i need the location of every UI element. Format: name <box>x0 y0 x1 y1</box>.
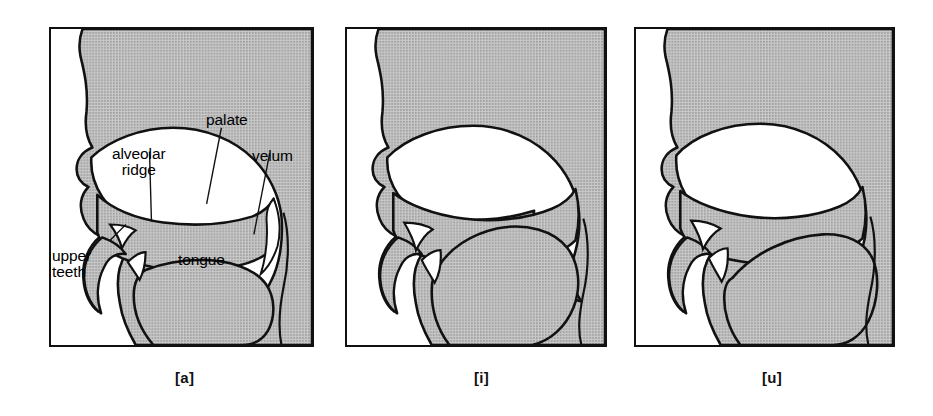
tongue-body <box>134 260 274 345</box>
label-palate: palate <box>206 112 248 128</box>
sagittal-diagram-i <box>347 29 605 345</box>
sagittal-diagram-u <box>636 29 893 345</box>
label-alveolar-ridge-line1: alveolar <box>112 145 165 162</box>
label-tongue: tongue <box>178 252 225 268</box>
label-alveolar-ridge-line2: ridge <box>112 162 165 178</box>
panel-vowel-u <box>634 27 895 347</box>
label-upper-teeth-line2: teeth <box>52 264 91 280</box>
label-upper-teeth: upper teeth <box>52 248 91 280</box>
caption-vowel-i: [i] <box>474 369 489 386</box>
label-alveolar-ridge: alveolar ridge <box>112 146 165 178</box>
label-upper-teeth-line1: upper <box>52 247 91 264</box>
sagittal-diagram-a <box>51 29 312 345</box>
panel-vowel-a <box>49 27 314 347</box>
caption-vowel-u: [u] <box>762 369 782 386</box>
vocal-tract-figure: palate alveolar ridge velum upper teeth … <box>0 0 933 416</box>
caption-vowel-a: [a] <box>175 369 194 386</box>
panel-vowel-i <box>345 27 607 347</box>
label-velum: velum <box>252 148 293 164</box>
